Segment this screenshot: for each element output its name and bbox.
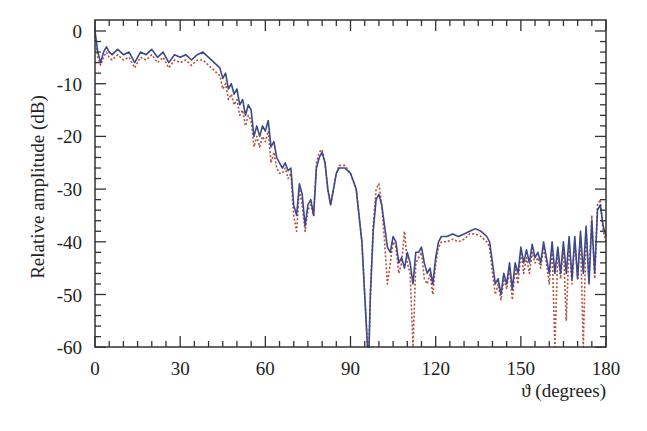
- series-layer: [95, 31, 606, 347]
- x-axis-title: ϑ (degrees): [521, 380, 606, 402]
- series-solid-line: [95, 31, 606, 347]
- x-tick-label: 180: [592, 358, 621, 379]
- y-tick-label: -30: [57, 179, 82, 200]
- y-axis-title: Relative amplitude (dB): [27, 95, 49, 279]
- y-tick-label: -10: [57, 74, 82, 95]
- x-tick-label: 120: [421, 358, 450, 379]
- plot-frame: [95, 20, 606, 347]
- x-tick-label: 90: [341, 358, 360, 379]
- series-dotted-line: [95, 36, 606, 347]
- y-tick-label: -20: [57, 126, 82, 147]
- x-tick-label: 30: [171, 358, 190, 379]
- y-tick-label: -40: [57, 232, 82, 253]
- ticks-layer: [95, 20, 606, 347]
- y-tick-label: -60: [57, 337, 82, 358]
- y-tick-labels: 0-10-20-30-40-50-60: [57, 21, 82, 358]
- x-tick-labels: 0306090120150180: [90, 358, 620, 379]
- x-tick-label: 60: [256, 358, 275, 379]
- x-tick-label: 0: [90, 358, 100, 379]
- chart: 0306090120150180 0-10-20-30-40-50-60 Rel…: [0, 0, 647, 431]
- x-tick-label: 150: [507, 358, 536, 379]
- y-tick-label: 0: [73, 21, 83, 42]
- y-tick-label: -50: [57, 285, 82, 306]
